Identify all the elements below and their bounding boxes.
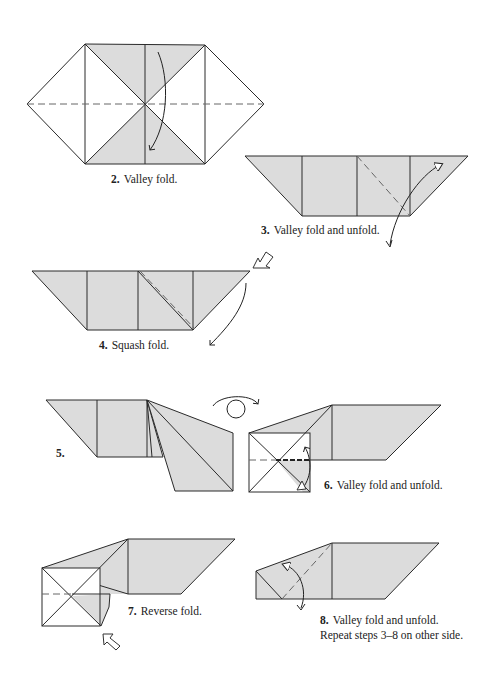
- push-arrow-icon: [253, 252, 273, 268]
- step-4-caption: 4.Squash fold.: [99, 338, 169, 352]
- step-number: 7.: [128, 605, 137, 617]
- turn-over-icon: [213, 397, 258, 418]
- step-number: 8.: [320, 614, 329, 626]
- step-number: 6.: [324, 479, 333, 491]
- step-number: 4.: [99, 339, 108, 351]
- step-2-diagram: [27, 44, 264, 164]
- origami-diagram: [0, 0, 484, 676]
- step-2-caption: 2.Valley fold.: [111, 172, 177, 186]
- step-instruction: Squash fold.: [112, 339, 170, 351]
- step-8-caption: 8.Valley fold and unfold.: [320, 613, 439, 627]
- step-number: 5.: [56, 447, 65, 459]
- step-4-diagram: [32, 252, 273, 345]
- step-instruction: Valley fold and unfold.: [337, 479, 443, 491]
- step-7-diagram: [42, 539, 235, 650]
- step-5-caption: 5.: [56, 446, 69, 460]
- step-3-caption: 3.Valley fold and unfold.: [261, 223, 380, 237]
- step-number: 2.: [111, 173, 120, 185]
- step-instruction: Valley fold and unfold.: [274, 224, 380, 236]
- step-instruction: Valley fold.: [124, 173, 178, 185]
- step-8-diagram: [256, 543, 439, 610]
- step-instruction: Valley fold and unfold.: [333, 614, 439, 626]
- step-number: 3.: [261, 224, 270, 236]
- step-8-note: Repeat steps 3–8 on other side.: [320, 628, 463, 642]
- step-5-diagram: [46, 397, 258, 491]
- push-arrow-icon: [103, 634, 120, 650]
- step-7-caption: 7.Reverse fold.: [128, 604, 202, 618]
- step-instruction: Reverse fold.: [141, 605, 202, 617]
- repeat-note: Repeat steps 3–8 on other side.: [320, 629, 463, 641]
- step-6-caption: 6.Valley fold and unfold.: [324, 478, 443, 492]
